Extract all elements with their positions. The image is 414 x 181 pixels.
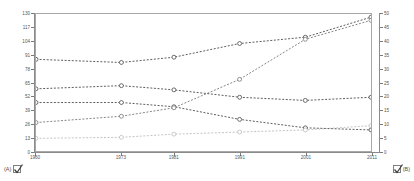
y-axis-left-tick-label: 0: [27, 150, 30, 155]
y-axis-left-tick: [31, 27, 34, 28]
y-axis-right-tick: [380, 96, 383, 97]
y-axis-right-tick-label: 0: [384, 150, 387, 155]
chart-series: [36, 101, 371, 132]
series-data-point: [303, 128, 307, 132]
y-axis-right-tick-label: 20: [384, 94, 389, 99]
x-axis-tick-label: 2011: [367, 155, 377, 161]
y-axis-left-tick-label: 26: [25, 122, 30, 127]
x-axis-tick-label: 1973: [116, 155, 126, 161]
series-line: [36, 103, 371, 130]
panel-b-label: (B): [403, 165, 410, 173]
y-axis-left-tick: [31, 110, 34, 111]
chart-series: [36, 15, 371, 64]
y-axis-right-tick: [380, 138, 383, 139]
x-axis: [34, 152, 380, 153]
y-axis-left-tick: [31, 55, 34, 56]
series-data-point: [36, 57, 38, 61]
y-axis-left-tick-label: 65: [25, 80, 30, 85]
series-data-point: [369, 124, 371, 128]
series-data-point: [238, 117, 242, 121]
y-axis-left-tick-label: 78: [25, 66, 30, 71]
y-axis-right: 05101520253035404550: [379, 13, 380, 152]
series-line: [36, 86, 371, 101]
y-axis-right-tick-label: 25: [384, 80, 389, 85]
panel-b-toggle[interactable]: (B): [393, 165, 410, 173]
y-axis-right-tick-label: 50: [384, 11, 389, 16]
series-data-point: [119, 61, 123, 65]
y-axis-right-tick: [380, 110, 383, 111]
series-data-point: [369, 18, 371, 22]
chart-series: [36, 84, 371, 103]
dual-axis-line-chart: 013263952657891104117130 051015202530354…: [0, 0, 414, 181]
chart-series: [36, 124, 371, 141]
y-axis-left-tick-label: 39: [25, 108, 30, 113]
check-mark-icon: [13, 164, 24, 175]
y-axis-right-tick-label: 35: [384, 52, 389, 57]
y-axis-right-tick-label: 30: [384, 66, 389, 71]
series-data-point: [172, 55, 176, 59]
y-axis-right-tick: [380, 27, 383, 28]
series-data-point: [36, 121, 38, 125]
y-axis-left-tick: [31, 124, 34, 125]
series-data-point: [36, 136, 38, 140]
checkbox-checked-icon[interactable]: [393, 165, 401, 173]
series-line: [36, 17, 371, 62]
series-line: [36, 20, 371, 122]
series-data-point: [369, 128, 371, 132]
y-axis-left-tick-label: 104: [22, 38, 30, 43]
y-axis-left-tick: [31, 96, 34, 97]
y-axis-left-tick-label: 91: [25, 52, 30, 57]
y-axis-left-tick: [31, 138, 34, 139]
series-data-point: [303, 98, 307, 102]
series-data-point: [238, 42, 242, 46]
series-data-point: [238, 77, 242, 81]
y-axis-right-tick: [380, 83, 383, 84]
y-axis-left-tick: [31, 69, 34, 70]
series-data-point: [119, 135, 123, 139]
series-data-point: [172, 88, 176, 92]
y-axis-left-tick: [31, 13, 34, 14]
series-data-point: [303, 37, 307, 41]
y-axis-right-tick: [380, 69, 383, 70]
series-layer: [36, 14, 371, 151]
x-axis-tick-label: 1991: [235, 155, 245, 161]
x-axis-tick-label: 1981: [169, 155, 179, 161]
y-axis-left-tick: [31, 83, 34, 84]
checkbox-checked-icon[interactable]: [13, 165, 21, 173]
x-axis-tick-label: 2001: [301, 155, 311, 161]
series-data-point: [36, 101, 38, 105]
y-axis-right-tick: [380, 124, 383, 125]
check-mark-icon: [393, 164, 404, 175]
x-axis-tick-label: 1960: [30, 155, 40, 161]
y-axis-right-tick-label: 10: [384, 122, 389, 127]
y-axis-left-tick: [31, 41, 34, 42]
series-data-point: [119, 84, 123, 88]
y-axis-right-tick-label: 40: [384, 38, 389, 43]
y-axis-right-tick-label: 45: [384, 24, 389, 29]
y-axis-left-tick-label: 52: [25, 94, 30, 99]
chart-series: [36, 18, 371, 124]
y-axis-right-tick: [380, 13, 383, 14]
plot-area: [35, 13, 372, 152]
y-axis-right-tick-label: 5: [384, 136, 387, 141]
y-axis-right-tick-label: 15: [384, 108, 389, 113]
y-axis-right-tick: [380, 152, 383, 153]
series-data-point: [172, 106, 176, 110]
series-data-point: [119, 114, 123, 118]
series-line: [36, 126, 371, 139]
panel-a-label: (A): [4, 165, 11, 173]
panel-a-toggle[interactable]: (A): [4, 165, 21, 173]
series-data-point: [36, 87, 38, 91]
series-data-point: [238, 130, 242, 134]
y-axis-right-tick: [380, 55, 383, 56]
y-axis-left-tick-label: 13: [25, 136, 30, 141]
series-data-point: [119, 101, 123, 105]
series-data-point: [172, 132, 176, 136]
series-data-point: [238, 95, 242, 99]
y-axis-left-tick-label: 117: [23, 24, 30, 29]
y-axis-left-tick-label: 130: [22, 11, 30, 16]
y-axis-right-tick: [380, 41, 383, 42]
series-data-point: [369, 95, 371, 99]
